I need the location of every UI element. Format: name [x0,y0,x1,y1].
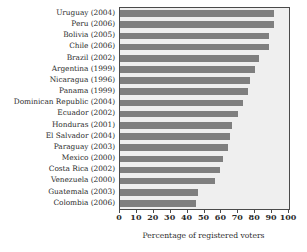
bar-row [120,109,289,120]
bar-row [120,97,289,108]
category-label: Chile (2006) [0,41,117,52]
bars-container [120,8,289,209]
bar [120,88,248,95]
category-label: Brazil (2002) [0,52,117,63]
category-label: Mexico (2000) [0,152,117,163]
bar-row [120,8,289,19]
bar-row [120,64,289,75]
bar-row [120,198,289,209]
x-tick-label: 20 [147,213,158,221]
category-label: Nicaragua (1996) [0,74,117,85]
bar [120,189,198,196]
category-label: Colombia (2006) [0,197,117,208]
x-tick-label: 80 [249,213,260,221]
bar [120,178,215,185]
bar-row [120,75,289,86]
bar [120,10,274,17]
category-label: Guatemala (2003) [0,186,117,197]
x-tick-label: 70 [232,213,243,221]
bar [120,111,238,118]
x-axis-title: Percentage of registered voters [119,232,288,240]
x-tick-label: 0 [116,213,122,221]
x-tick-label: 60 [215,213,226,221]
bar-row [120,86,289,97]
bar-row [120,53,289,64]
bar [120,133,230,140]
bar-row [120,120,289,131]
x-tick-label: 90 [266,213,277,221]
x-tick-label: 100 [280,213,297,221]
bar [120,55,259,62]
plot-area [119,7,290,210]
bar-row [120,30,289,41]
x-tick-label: 30 [164,213,175,221]
bar [120,122,232,129]
bar [120,77,250,84]
bar-row [120,131,289,142]
category-label: Dominican Republic (2004) [0,96,117,107]
x-tick-label: 50 [198,213,209,221]
category-label: Panama (1999) [0,85,117,96]
bar [120,21,274,28]
bar [120,144,228,151]
bar-row [120,19,289,30]
x-tick-label: 40 [181,213,192,221]
bar [120,167,220,174]
bar [120,100,243,107]
category-label: Venezuela (2000) [0,175,117,186]
category-label: Uruguay (2004) [0,7,117,18]
x-tick-label: 10 [130,213,141,221]
bar-row [120,164,289,175]
bar [120,200,196,207]
bar-row [120,176,289,187]
x-axis-tick-labels: 0102030405060708090100 [119,213,288,225]
category-label: Paraguay (2003) [0,141,117,152]
category-label: El Salvador (2004) [0,130,117,141]
bar [120,156,223,163]
category-label: Bolivia (2005) [0,29,117,40]
category-axis-labels: Uruguay (2004)Peru (2006)Bolivia (2005)C… [0,7,117,208]
category-label: Costa Rica (2002) [0,163,117,174]
bar-row [120,153,289,164]
bar-row [120,42,289,53]
bar-row [120,142,289,153]
bar-row [120,187,289,198]
category-label: Honduras (2001) [0,119,117,130]
bar [120,66,255,73]
category-label: Ecuador (2002) [0,108,117,119]
bar-chart: Uruguay (2004)Peru (2006)Bolivia (2005)C… [0,0,307,252]
category-label: Peru (2006) [0,18,117,29]
bar [120,44,269,51]
bar [120,33,269,40]
category-label: Argentina (1999) [0,63,117,74]
